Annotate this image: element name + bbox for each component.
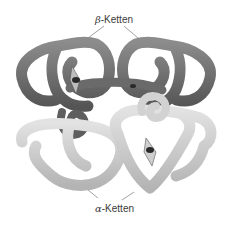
- alpha-label-text: -Ketten: [102, 203, 134, 214]
- beta-label-text: -Ketten: [101, 14, 133, 25]
- beta-chains-label: β-Ketten: [95, 14, 133, 25]
- alpha-chains: [22, 96, 212, 188]
- beta-chain-right: [123, 42, 211, 106]
- alpha-chains-label: α-Ketten: [95, 203, 134, 214]
- alpha-coil-right: [141, 96, 166, 118]
- beta-chain-left: [22, 42, 110, 106]
- hemoglobin-diagram: [0, 0, 232, 232]
- heme-group-center: [130, 84, 136, 88]
- alpha-chain-right: [115, 110, 211, 188]
- alpha-symbol: α: [95, 203, 102, 214]
- alpha-chain-left: [22, 124, 121, 186]
- heme-group-alpha: [144, 138, 156, 166]
- beta-leader-lines: [88, 26, 138, 38]
